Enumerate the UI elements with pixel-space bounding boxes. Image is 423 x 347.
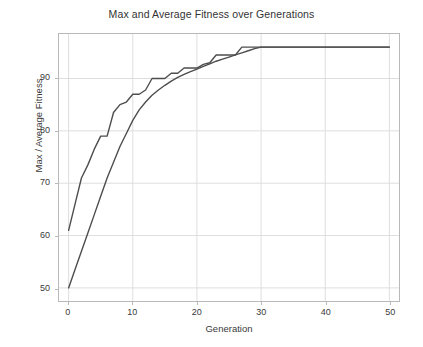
x-tick-mark bbox=[326, 302, 327, 305]
x-tick-mark bbox=[68, 302, 69, 305]
y-tick-mark bbox=[55, 236, 58, 237]
chart-figure: Max and Average Fitness over Generations… bbox=[0, 0, 423, 347]
x-tick-label: 30 bbox=[241, 307, 281, 317]
x-tick-label: 20 bbox=[177, 307, 217, 317]
x-tick-label: 50 bbox=[370, 307, 410, 317]
x-tick-mark bbox=[132, 302, 133, 305]
y-axis-label: Max / Average Fitness bbox=[33, 26, 44, 226]
y-tick-mark bbox=[55, 289, 58, 290]
x-tick-label: 0 bbox=[48, 307, 88, 317]
x-tick-mark bbox=[197, 302, 198, 305]
chart-title: Max and Average Fitness over Generations bbox=[0, 8, 423, 20]
y-tick-label: 60 bbox=[2, 230, 50, 240]
series-lines bbox=[59, 34, 399, 301]
series-line bbox=[69, 47, 390, 288]
plot-area bbox=[58, 33, 400, 302]
x-tick-mark bbox=[390, 302, 391, 305]
y-tick-label: 50 bbox=[2, 283, 50, 293]
x-tick-label: 10 bbox=[112, 307, 152, 317]
x-tick-mark bbox=[261, 302, 262, 305]
y-tick-mark bbox=[55, 78, 58, 79]
y-tick-mark bbox=[55, 183, 58, 184]
y-tick-mark bbox=[55, 131, 58, 132]
series-line bbox=[69, 47, 390, 230]
x-axis-label: Generation bbox=[58, 323, 400, 334]
x-tick-label: 40 bbox=[306, 307, 346, 317]
